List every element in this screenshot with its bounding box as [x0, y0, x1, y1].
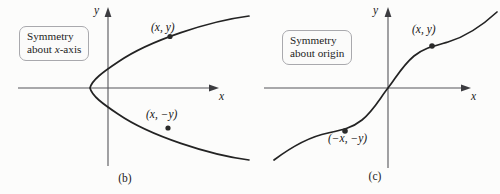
x-axis-label-c: x — [471, 90, 476, 102]
callout-line2-prefix: about origin — [290, 47, 344, 59]
point-label-upper-b-text: (x, y) — [151, 21, 175, 33]
figure-container: Symmetry about x-axis y x (x, y) (x, −y)… — [0, 0, 500, 194]
callout-symmetry-origin: Symmetry about origin — [282, 30, 352, 65]
callout-line2: about x-axis — [27, 43, 81, 56]
y-axis-label-b: y — [94, 4, 99, 16]
x-axis-b — [18, 85, 219, 92]
point-marker-upper-c — [429, 43, 435, 49]
point-marker-lower-b — [165, 125, 170, 130]
y-axis-b — [105, 7, 112, 166]
panel-caption-c: (c) — [250, 170, 500, 182]
panel-symmetry-x-axis: Symmetry about x-axis y x (x, y) (x, −y)… — [0, 0, 250, 194]
callout-line2-suffix: -axis — [60, 43, 82, 55]
point-label-lower-b: (x, −y) — [146, 108, 177, 120]
callout-line1: Symmetry — [290, 34, 344, 47]
panel-caption-b: (b) — [0, 172, 250, 184]
point-label-lower-c: (−x, −y) — [328, 132, 367, 144]
x-axis-label-b: x — [219, 90, 224, 102]
callout-line2: about origin — [290, 47, 344, 60]
point-label-upper-c: (x, y) — [412, 23, 436, 35]
callout-line2-prefix: about — [27, 43, 55, 55]
point-label-upper-b: (x, y) — [151, 21, 175, 33]
callout-line1: Symmetry — [27, 30, 81, 43]
y-axis-label-c: y — [373, 4, 378, 16]
panel-symmetry-origin: Symmetry about origin y x (x, y) (−x, −y… — [250, 0, 500, 194]
callout-symmetry-x-axis: Symmetry about x-axis — [19, 26, 89, 61]
point-label-lower-c-text: (−x, −y) — [328, 132, 367, 144]
x-axis-c — [264, 85, 471, 92]
point-marker-upper-b — [167, 34, 172, 39]
point-label-upper-c-text: (x, y) — [412, 23, 436, 35]
point-label-lower-b-text: (x, −y) — [146, 108, 177, 120]
